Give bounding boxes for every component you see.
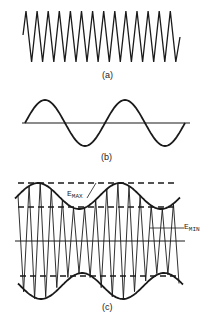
emax-label: EMAX (67, 189, 83, 200)
panel-c-label: (c) (102, 302, 113, 312)
emin-label: EMIN (184, 222, 200, 233)
emin-sub: MIN (189, 226, 200, 233)
emax-leader-line (87, 183, 96, 198)
emax-sub: MAX (72, 193, 83, 200)
carrier-triangle-wave (23, 11, 180, 62)
panel-b-label: (b) (101, 152, 112, 162)
panel-a-label: (a) (102, 70, 113, 80)
